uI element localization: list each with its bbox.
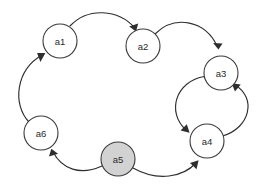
node-a1-label: a1 — [55, 36, 66, 47]
edge-a5-a4 — [133, 160, 199, 176]
node-a5-label: a5 — [113, 154, 124, 165]
edge-a1-a2-path — [70, 13, 135, 28]
node-a6-label: a6 — [36, 128, 47, 139]
node-a1[interactable]: a1 — [43, 24, 77, 58]
node-a3-label: a3 — [216, 68, 227, 79]
edge-a3-a4 — [176, 77, 205, 133]
node-a4-label: a4 — [202, 136, 213, 147]
edge-a2-a3 — [155, 22, 223, 49]
edge-a2-a3-arrowhead — [213, 43, 222, 50]
edge-a5-a6 — [49, 149, 102, 171]
node-a6[interactable]: a6 — [24, 116, 58, 150]
node-a2[interactable]: a2 — [126, 29, 160, 63]
edge-a6-a1-path — [19, 55, 42, 122]
edge-a3-a4-path — [176, 77, 205, 131]
edge-a5-a6-arrowhead — [49, 149, 58, 157]
node-a4[interactable]: a4 — [190, 124, 224, 158]
edge-a6-a1 — [19, 53, 46, 122]
edge-a1-a2 — [70, 13, 138, 32]
edge-a2-a3-path — [155, 22, 217, 46]
edge-a5-a6-path — [53, 152, 102, 171]
edge-a4-a3 — [223, 83, 249, 136]
node-a5[interactable]: a5 — [101, 142, 135, 176]
node-a3[interactable]: a3 — [204, 56, 238, 90]
node-a2-label: a2 — [138, 41, 149, 52]
directed-graph-diagram: a1 a2 a3 a4 a5 a6 — [0, 0, 259, 192]
edge-a5-a4-path — [133, 163, 196, 176]
edge-a4-a3-path — [223, 85, 249, 136]
